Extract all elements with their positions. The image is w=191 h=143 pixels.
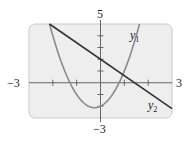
y-min-label: −3 xyxy=(93,123,106,135)
y-max-label: 5 xyxy=(97,8,103,20)
y1-label: y1 xyxy=(130,29,139,44)
x-min-label: −3 xyxy=(7,77,20,89)
x-max-label: 3 xyxy=(176,77,182,89)
y2-label: y2 xyxy=(148,99,157,114)
